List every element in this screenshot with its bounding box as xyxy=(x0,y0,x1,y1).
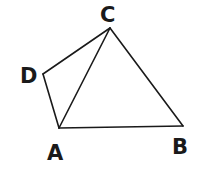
edge-cd xyxy=(43,28,110,74)
edge-ab xyxy=(59,126,183,128)
vertex-label-d: D xyxy=(20,64,37,88)
vertex-label-c: C xyxy=(100,3,115,27)
edge-ac xyxy=(59,28,110,128)
vertex-label-b: B xyxy=(172,135,188,159)
vertex-label-a: A xyxy=(47,141,64,165)
edges-group xyxy=(43,28,183,128)
edge-da xyxy=(43,74,59,128)
edge-bc xyxy=(110,28,183,126)
geometry-diagram: A B C D xyxy=(0,0,200,169)
